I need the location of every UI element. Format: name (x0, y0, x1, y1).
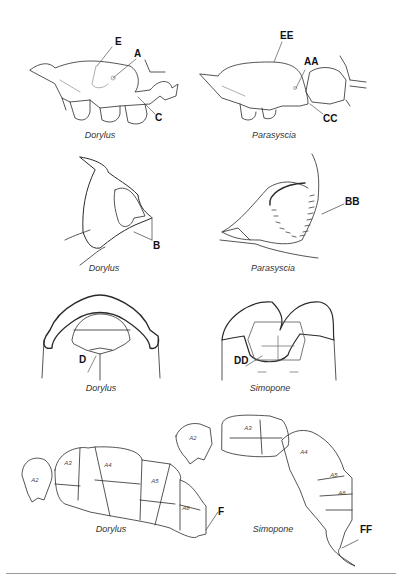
simopone-gaster-drawing (176, 415, 358, 566)
label-c: C (155, 112, 162, 123)
illustration-plate: E A C EE AA CC Dorylus Parasyscia B BB D… (0, 0, 398, 583)
label-dd: DD (234, 355, 248, 366)
label-bb: BB (345, 196, 359, 207)
label-ff: FF (360, 524, 372, 535)
parasyscia-propodeum-drawing (220, 154, 344, 258)
segment-a6-dorylus: A6 (182, 505, 189, 511)
label-aa: AA (304, 56, 318, 67)
label-cc: CC (323, 113, 337, 124)
label-b: B (153, 240, 160, 251)
segment-a5-simopone: A5 (330, 472, 337, 478)
segment-a2-dorylus: A2 (31, 477, 38, 483)
dorylus-propodeum-drawing (65, 157, 152, 265)
segment-a3-dorylus: A3 (64, 460, 71, 466)
dorylus-head-drawing (42, 295, 160, 380)
label-e: E (115, 36, 122, 47)
caption-simopone-4: Simopone (253, 524, 294, 534)
segment-a2-simopone: A2 (189, 435, 196, 441)
segment-a5-dorylus: A5 (151, 478, 158, 484)
label-d: D (79, 354, 86, 365)
caption-dorylus-3: Dorylus (86, 383, 117, 393)
segment-a6-simopone: A6 (338, 490, 345, 496)
segment-a4-simopone: A4 (300, 449, 307, 455)
caption-dorylus-2: Dorylus (89, 263, 120, 273)
caption-dorylus-1: Dorylus (85, 130, 116, 140)
segment-a4-dorylus: A4 (104, 462, 111, 468)
caption-parasyscia-2: Parasyscia (251, 263, 295, 273)
leader-lines (88, 42, 323, 372)
label-ee: EE (280, 30, 293, 41)
label-a: A (134, 48, 141, 59)
label-f: F (218, 506, 224, 517)
caption-parasyscia-1: Parasyscia (252, 130, 296, 140)
bottom-divider (6, 573, 396, 574)
segment-a3-simopone: A3 (244, 425, 251, 431)
caption-dorylus-4: Dorylus (96, 524, 127, 534)
caption-simopone-3: Simopone (250, 383, 291, 393)
parasyscia-mesosoma-drawing (200, 56, 366, 120)
simopone-head-drawing (222, 302, 336, 380)
